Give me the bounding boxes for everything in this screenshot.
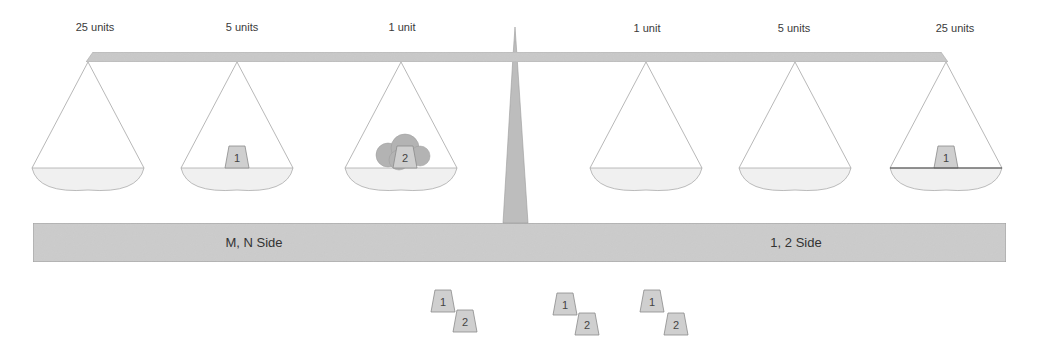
loose-weight-2: 2 <box>575 313 599 335</box>
loose-weight-1: 1 <box>553 293 577 315</box>
balance-beam <box>86 52 948 62</box>
beam-label-left-25: 25 units <box>76 21 115 33</box>
weight-label: 1 <box>234 152 240 164</box>
pan-string-right <box>646 62 702 168</box>
weight-2: 2 <box>393 146 417 168</box>
loose-weight-1: 1 <box>431 290 455 312</box>
pan-bowl <box>890 168 1002 191</box>
base-platform <box>33 223 1006 262</box>
pair-1: 12 <box>431 290 477 332</box>
pan-left-25 <box>32 62 144 191</box>
base-label-left-side: M, N Side <box>225 235 282 250</box>
weight-label: 1 <box>943 152 949 164</box>
pan-string-right <box>795 62 851 168</box>
beam-label-right-25: 25 units <box>936 22 975 34</box>
loose-weight-2: 2 <box>664 313 688 335</box>
weight-label: 2 <box>402 152 408 164</box>
pair-2: 12 <box>553 293 599 335</box>
loose-weight-2: 2 <box>453 310 477 332</box>
pan-bowl <box>181 168 293 191</box>
scale-drawing: 121 121212 <box>0 0 1041 359</box>
pan-bowl <box>739 168 851 191</box>
pan-left-5: 1 <box>181 62 293 191</box>
pan-string-left <box>590 62 646 168</box>
pan-bowl <box>32 168 144 191</box>
pan-left-1: 2 <box>345 62 457 191</box>
pan-bowl <box>345 168 457 191</box>
beam-label-right-5: 5 units <box>778 22 810 34</box>
pan-right-5 <box>739 62 851 191</box>
weight-label: 2 <box>673 319 679 331</box>
weight-1: 1 <box>225 146 249 168</box>
weight-label: 2 <box>584 319 590 331</box>
base-label-right-side: 1, 2 Side <box>770 235 821 250</box>
weight-label: 1 <box>440 296 446 308</box>
pan-string-right <box>88 62 144 168</box>
pan-string-left <box>739 62 795 168</box>
weight-1: 1 <box>934 146 958 168</box>
beam-label-right-1: 1 unit <box>634 22 661 34</box>
loose-weights: 121212 <box>431 290 688 335</box>
pan-string-left <box>32 62 88 168</box>
balance-scale-diagram: 121 121212 25 units 5 units 1 unit 1 uni… <box>0 0 1041 359</box>
pan-bowl <box>590 168 702 191</box>
weight-label: 2 <box>462 316 468 328</box>
pair-3: 12 <box>640 290 688 335</box>
weight-label: 1 <box>562 299 568 311</box>
beam-label-left-1: 1 unit <box>389 21 416 33</box>
loose-weight-1: 1 <box>640 290 664 312</box>
pan-right-25: 1 <box>890 62 1002 191</box>
weight-label: 1 <box>649 296 655 308</box>
beam-label-left-5: 5 units <box>226 21 258 33</box>
pan-right-1 <box>590 62 702 191</box>
